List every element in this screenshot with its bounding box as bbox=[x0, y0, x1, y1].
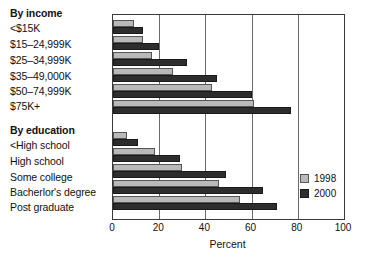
category-label-education-0: <High school bbox=[10, 140, 70, 151]
bar-education-4-1998 bbox=[113, 196, 240, 203]
bar-education-0-1998 bbox=[113, 132, 127, 139]
category-label-education-2: Some college bbox=[10, 172, 72, 183]
bar-education-4-2000 bbox=[113, 203, 277, 210]
legend-item-2000: 2000 bbox=[300, 187, 344, 200]
x-axis-title: Percent bbox=[112, 238, 343, 250]
category-label-column: By income <$15K $15–24,999K $25–34,999K … bbox=[0, 0, 110, 220]
category-label-income-2: $25–34,999K bbox=[10, 55, 71, 66]
legend: 1998 2000 bbox=[300, 172, 344, 202]
category-label-education-1: High school bbox=[10, 156, 64, 167]
gridline-80 bbox=[298, 15, 299, 219]
xtick-80: 80 bbox=[282, 222, 312, 233]
bar-income-4-1998 bbox=[113, 84, 212, 91]
bar-income-4-2000 bbox=[113, 91, 252, 98]
bar-education-0-2000 bbox=[113, 139, 138, 146]
group-heading-income: By income bbox=[10, 8, 62, 19]
category-label-education-4: Post graduate bbox=[10, 202, 74, 213]
bar-income-1-1998 bbox=[113, 36, 143, 43]
legend-item-1998: 1998 bbox=[300, 172, 344, 185]
bar-income-2-2000 bbox=[113, 59, 187, 66]
group-heading-education: By education bbox=[10, 125, 75, 136]
bar-income-3-2000 bbox=[113, 75, 217, 82]
category-label-income-0: <$15K bbox=[10, 23, 40, 34]
xtick-20: 20 bbox=[143, 222, 173, 233]
bar-income-5-2000 bbox=[113, 107, 291, 114]
bar-education-3-1998 bbox=[113, 180, 219, 187]
bar-chart: By income <$15K $15–24,999K $25–34,999K … bbox=[0, 0, 371, 263]
bar-education-1-2000 bbox=[113, 155, 180, 162]
category-label-income-3: $35–49,000K bbox=[10, 71, 71, 82]
legend-label-1998: 1998 bbox=[314, 173, 336, 184]
xtick-100: 100 bbox=[328, 222, 358, 233]
xtick-60: 60 bbox=[236, 222, 266, 233]
legend-swatch-2000-icon bbox=[300, 189, 309, 198]
bar-income-0-2000 bbox=[113, 27, 143, 34]
xtick-40: 40 bbox=[189, 222, 219, 233]
bar-education-2-2000 bbox=[113, 171, 226, 178]
bar-education-1-1998 bbox=[113, 148, 155, 155]
bar-income-3-1998 bbox=[113, 68, 173, 75]
bar-education-2-1998 bbox=[113, 164, 182, 171]
category-label-income-5: $75K+ bbox=[10, 101, 40, 112]
xtick-0: 0 bbox=[97, 222, 127, 233]
legend-swatch-1998-icon bbox=[300, 174, 309, 183]
category-label-income-4: $50–74,999K bbox=[10, 86, 71, 97]
bar-income-1-2000 bbox=[113, 43, 159, 50]
bar-income-5-1998 bbox=[113, 100, 254, 107]
category-label-education-3: Bacherlor's degree bbox=[10, 187, 96, 198]
category-label-income-1: $15–24,999K bbox=[10, 39, 71, 50]
bar-income-0-1998 bbox=[113, 20, 134, 27]
bar-income-2-1998 bbox=[113, 52, 152, 59]
legend-label-2000: 2000 bbox=[314, 188, 336, 199]
bar-education-3-2000 bbox=[113, 187, 263, 194]
